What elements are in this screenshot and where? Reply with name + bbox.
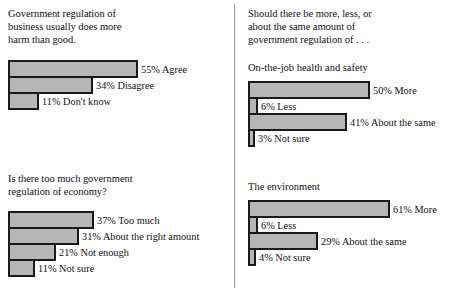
bar-row-dontknow: 11% Don't know: [8, 92, 223, 110]
bar-label-right-amount: 31% About the right amount: [79, 231, 199, 242]
chart-title: Is there too much government regulation …: [8, 172, 230, 198]
bar-row-not-sure: 3% Not sure: [248, 129, 456, 147]
bar-label-not-sure: 4% Not sure: [256, 252, 310, 263]
chart-too-much-regulation: Is there too much government regulation …: [8, 172, 230, 277]
bar-label-too-much: 37% Too much: [94, 215, 160, 226]
left-column: Government regulation of business usuall…: [0, 0, 234, 290]
bar-label-not-sure: 11% Not sure: [35, 263, 94, 274]
bar-label-less: 6% Less: [258, 101, 296, 112]
bar-label-agree: 55% Agree: [138, 63, 187, 74]
chart-on-the-job-health-safety: On-the-job health and safety 50% More 6%…: [248, 61, 456, 147]
chart-title: Government regulation of business usuall…: [8, 7, 223, 47]
chart-title: Should there be more, less, or about the…: [248, 7, 453, 47]
bar-row-not-sure: 4% Not sure: [248, 248, 456, 266]
bar-label-not-sure: 3% Not sure: [255, 133, 309, 144]
bar-label-less: 6% Less: [258, 220, 296, 231]
bar-label-more: 61% More: [390, 204, 437, 215]
right-column-heading: Should there be more, less, or about the…: [248, 7, 453, 47]
chart-subtitle: The environment: [248, 180, 456, 193]
bar-not-sure: [248, 129, 255, 147]
survey-figure: Government regulation of business usuall…: [0, 0, 457, 290]
chart-regulation-harm: Government regulation of business usuall…: [8, 7, 223, 110]
chart-subtitle: On-the-job health and safety: [248, 61, 456, 74]
bar-label-not-enough: 21% Not enough: [56, 247, 129, 258]
bar-dontknow: [8, 92, 39, 110]
bar-row-not-sure: 11% Not sure: [8, 259, 230, 277]
bar-group: 55% Agree 34% Disagree 11% Don't know: [8, 60, 223, 110]
chart-the-environment: The environment 61% More 6% Less 29% Abo…: [248, 180, 456, 266]
bar-not-sure: [248, 248, 256, 266]
bar-label-about-same: 41% About the same: [347, 117, 436, 128]
bar-label-disagree: 34% Disagree: [93, 79, 154, 90]
bar-group: 61% More 6% Less 29% About the same 4% N…: [248, 200, 456, 266]
bar-not-sure: [8, 259, 35, 277]
bar-label-about-same: 29% About the same: [318, 236, 407, 247]
bar-group: 37% Too much 31% About the right amount …: [8, 211, 230, 277]
bar-label-more: 50% More: [370, 85, 417, 96]
bar-group: 50% More 6% Less 41% About the same 3% N…: [248, 81, 456, 147]
right-column: Should there be more, less, or about the…: [234, 0, 457, 290]
bar-label-dontknow: 11% Don't know: [39, 95, 111, 106]
